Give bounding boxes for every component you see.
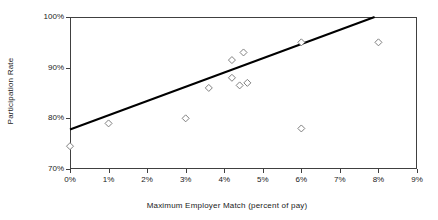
x-tick-label: 7% (325, 175, 355, 184)
y-tick-mark (66, 169, 70, 170)
plot-canvas (70, 17, 417, 169)
x-tick-label: 5% (248, 175, 278, 184)
x-tick-label: 0% (55, 175, 85, 184)
x-tick-mark (147, 169, 148, 173)
x-axis-title: Maximum Employer Match (percent of pay) (147, 201, 308, 210)
x-tick-label: 8% (363, 175, 393, 184)
y-tick-label: 80% (28, 113, 64, 122)
trend-line (70, 17, 375, 129)
data-point-marker (244, 79, 251, 86)
data-point-marker (375, 39, 382, 46)
data-point-marker (105, 120, 112, 127)
x-tick-mark (186, 169, 187, 173)
data-point-marker (67, 143, 74, 150)
y-axis-title: Participation Rate (6, 58, 15, 125)
x-tick-mark (340, 169, 341, 173)
y-tick-mark (66, 118, 70, 119)
data-point-marker (182, 115, 189, 122)
x-tick-label: 1% (94, 175, 124, 184)
x-axis-tick-labels: 0%1%2%3%4%5%6%7%8%9% (70, 175, 417, 185)
x-tick-label: 6% (286, 175, 316, 184)
x-tick-mark (224, 169, 225, 173)
scatter-chart-figure: Participation Rate 100%90%80%70% 0%1%2%3… (0, 0, 438, 220)
x-tick-mark (263, 169, 264, 173)
data-point-marker (228, 57, 235, 64)
data-point-marker (205, 84, 212, 91)
x-tick-mark (301, 169, 302, 173)
x-tick-mark (70, 169, 71, 173)
x-tick-mark (378, 169, 379, 173)
y-tick-label: 70% (28, 164, 64, 173)
data-point-marker (240, 49, 247, 56)
x-tick-label: 9% (402, 175, 432, 184)
x-tick-label: 4% (209, 175, 239, 184)
data-point-marker (298, 125, 305, 132)
x-tick-mark (109, 169, 110, 173)
y-tick-label: 90% (28, 63, 64, 72)
data-point-marker (228, 74, 235, 81)
x-tick-label: 2% (132, 175, 162, 184)
x-tick-label: 3% (171, 175, 201, 184)
y-tick-mark (66, 17, 70, 18)
x-tick-mark (417, 169, 418, 173)
y-axis-tick-labels: 100%90%80%70% (28, 17, 64, 169)
y-tick-mark (66, 68, 70, 69)
y-tick-label: 100% (28, 12, 64, 21)
data-point-marker (236, 82, 243, 89)
